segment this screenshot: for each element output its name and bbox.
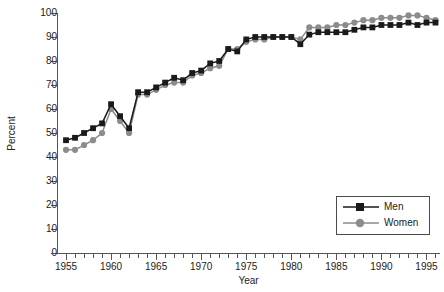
data-point: [117, 113, 123, 119]
data-point: [342, 29, 348, 35]
data-point: [153, 85, 159, 91]
data-point: [81, 142, 87, 148]
data-point: [162, 80, 168, 86]
data-point: [306, 24, 312, 30]
legend-item-women: Women: [342, 216, 428, 230]
data-point: [351, 27, 357, 33]
data-point: [171, 75, 177, 81]
data-point: [99, 121, 105, 127]
data-point: [144, 89, 150, 95]
chart-legend: Men Women: [336, 196, 430, 235]
data-point: [433, 20, 439, 26]
series-men: [63, 20, 438, 143]
data-point: [180, 77, 186, 83]
data-point: [396, 15, 402, 21]
data-point: [81, 130, 87, 136]
data-point: [324, 29, 330, 35]
data-point: [270, 34, 276, 40]
data-point: [261, 34, 267, 40]
data-point: [361, 25, 367, 31]
data-point: [415, 22, 421, 28]
data-point: [90, 137, 96, 143]
data-point: [297, 41, 303, 47]
legend-label-women: Women: [384, 217, 418, 229]
data-point: [387, 15, 393, 21]
data-point: [99, 130, 105, 136]
data-point: [225, 46, 231, 52]
data-point: [288, 34, 294, 40]
data-point: [72, 135, 78, 141]
data-point: [351, 20, 357, 26]
data-point: [72, 147, 78, 153]
data-point: [90, 125, 96, 131]
data-point: [198, 68, 204, 74]
data-point: [189, 70, 195, 76]
line-chart: 0102030405060708090100 19551960196519701…: [0, 0, 444, 292]
data-point: [333, 29, 339, 35]
data-point: [63, 137, 69, 143]
data-point: [315, 29, 321, 35]
legend-marker-women: [342, 216, 380, 230]
data-point: [414, 12, 420, 18]
data-point: [388, 22, 394, 28]
data-point: [135, 89, 141, 95]
data-point: [405, 12, 411, 18]
data-point: [306, 32, 312, 38]
data-point: [424, 20, 430, 26]
data-point: [243, 37, 249, 43]
legend-item-men: Men: [342, 200, 428, 214]
plot-area: [0, 0, 444, 292]
data-point: [342, 22, 348, 28]
legend-label-men: Men: [384, 201, 403, 213]
legend-marker-men: [342, 200, 380, 214]
data-point: [126, 125, 132, 131]
data-point: [207, 61, 213, 67]
data-point: [397, 22, 403, 28]
data-point: [216, 58, 222, 64]
data-point: [252, 34, 258, 40]
data-point: [234, 49, 240, 55]
data-point: [333, 22, 339, 28]
data-point: [279, 34, 285, 40]
data-point: [370, 25, 376, 31]
data-point: [369, 17, 375, 23]
data-point: [406, 20, 412, 26]
data-point: [379, 22, 385, 28]
data-point: [378, 15, 384, 21]
series-line: [66, 15, 435, 149]
data-point: [108, 101, 114, 107]
data-point: [360, 17, 366, 23]
series-women: [63, 12, 439, 153]
data-point: [63, 147, 69, 153]
